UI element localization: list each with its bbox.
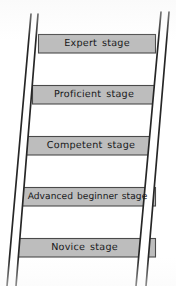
rung-expert-box xyxy=(39,35,156,54)
rung-novice xyxy=(14,239,156,258)
rung-expert xyxy=(39,35,156,54)
ladder-graphic xyxy=(0,0,176,286)
ladder-diagram: Expert stage Proficient stage Competent … xyxy=(0,0,176,286)
rung-proficient xyxy=(33,86,156,105)
rung-novice-box xyxy=(14,239,156,258)
rung-proficient-box xyxy=(33,86,156,105)
rung-competent xyxy=(27,137,156,156)
rung-advanced-beginner-box xyxy=(20,188,156,207)
rung-advanced-beginner xyxy=(20,188,156,207)
rung-competent-box xyxy=(27,137,156,156)
